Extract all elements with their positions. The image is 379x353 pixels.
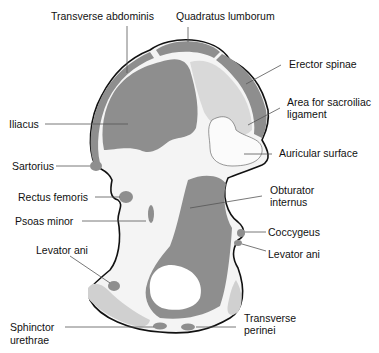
label-coccygeus: Coccygeus (268, 226, 320, 238)
label-rectus-femoris: Rectus femoris (18, 191, 88, 203)
label-sphincter-2: urethrae (10, 334, 49, 346)
label-psoas-minor: Psoas minor (15, 215, 74, 227)
label-quadratus-lumborum: Quadratus lumborum (176, 10, 275, 22)
leader-levator-ani-left (70, 256, 110, 283)
label-sacroiliac-1: Area for sacroiliac (287, 96, 371, 108)
label-transverse-abdominis: Transverse abdominis (51, 10, 154, 22)
label-transverse-perinei-2: perinei (244, 324, 276, 336)
label-sacroiliac-2: ligament (287, 108, 327, 120)
leader-levator-ani-right (242, 244, 266, 251)
label-iliacus: Iliacus (9, 118, 39, 130)
label-obturator-1: Obturator (270, 184, 315, 196)
label-auricular-surface: Auricular surface (279, 147, 358, 159)
levator-ani-right-attachment (234, 240, 242, 246)
psoas-minor-attachment (148, 205, 154, 223)
label-transverse-perinei-1: Transverse (244, 312, 296, 324)
label-sphincter-1: Sphinctor (10, 321, 55, 333)
transverse-perinei-attachment (181, 324, 195, 331)
label-levator-ani-right: Levator ani (268, 248, 320, 260)
rectus-femoris-attachment (119, 191, 133, 203)
sphincter-urethrae-attachment (153, 323, 167, 330)
sartorius-attachment (90, 161, 102, 171)
coccygeus-attachment (237, 229, 245, 237)
label-levator-ani-left: Levator ani (36, 244, 88, 256)
label-erector-spinae: Erector spinae (289, 58, 357, 70)
hip-bone-diagram: Transverse abdominis Quadratus lumborum … (0, 0, 379, 353)
label-sartorius: Sartorius (12, 160, 54, 172)
label-obturator-2: internus (270, 196, 307, 208)
